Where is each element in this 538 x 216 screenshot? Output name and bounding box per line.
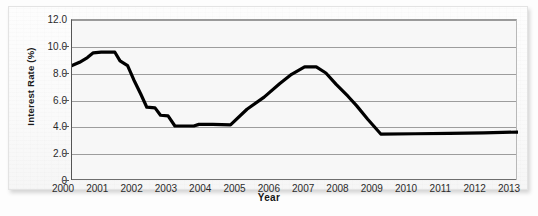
y-tick-mark — [63, 73, 69, 74]
chart-figure: Interest Rate (%) 12.010.08.06.04.02.00 … — [0, 0, 538, 216]
y-tick-label: 12.0 — [27, 14, 67, 25]
y-tick-mark — [63, 100, 69, 101]
y-tick-mark — [63, 46, 69, 47]
y-tick-mark — [63, 126, 69, 127]
y-tick-mark — [63, 153, 69, 154]
y-tick-label: 6.0 — [27, 94, 67, 105]
x-tick-label: 2013 — [487, 183, 531, 194]
y-tick-mark — [63, 180, 69, 181]
y-tick-label: 4.0 — [27, 121, 67, 132]
y-tick-label: 10.0 — [27, 40, 67, 51]
plot-area — [71, 19, 517, 180]
chart-card: Interest Rate (%) 12.010.08.06.04.02.00 … — [8, 6, 528, 190]
y-tick-label: 2.0 — [27, 148, 67, 159]
data-series-line — [72, 20, 518, 181]
y-axis-ticks: 12.010.08.06.04.02.00 — [23, 7, 67, 189]
y-tick-label: 8.0 — [27, 67, 67, 78]
